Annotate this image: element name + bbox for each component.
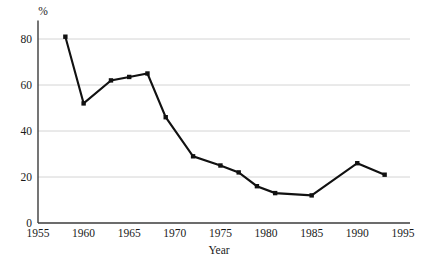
data-series-line [65, 37, 384, 196]
y-tick-label-group: 020406080 [21, 33, 33, 229]
x-tick-label: 1955 [27, 227, 50, 239]
x-axis-title: Year [208, 244, 229, 256]
x-tick-label: 1990 [346, 227, 369, 239]
y-tick-label: 40 [21, 125, 33, 137]
x-tick-label: 1975 [209, 227, 232, 239]
data-point-marker [382, 173, 386, 177]
data-point-marker [127, 75, 131, 79]
x-tick-label: 1980 [255, 227, 278, 239]
gridline-group [38, 39, 410, 177]
x-tick-label-group: 195519601965197019751980198519901995 [27, 227, 415, 239]
data-point-marker [255, 184, 259, 188]
y-axis-unit-label: % [38, 5, 48, 17]
y-tick-label: 80 [21, 33, 33, 45]
data-point-marker [273, 191, 277, 195]
data-point-marker [81, 101, 85, 105]
x-tick-label: 1965 [118, 227, 141, 239]
data-point-marker [236, 170, 240, 174]
data-point-marker [218, 163, 222, 167]
data-point-marker [63, 35, 67, 39]
data-point-marker [164, 115, 168, 119]
y-tick-label: 60 [21, 79, 33, 91]
x-tick-label: 1985 [300, 227, 323, 239]
axis-group [38, 21, 410, 223]
x-tick-label: 1995 [391, 227, 414, 239]
x-tick-label: 1970 [163, 227, 186, 239]
data-point-marker [145, 71, 149, 75]
data-point-marker [355, 161, 359, 165]
chart-container: 020406080 195519601965197019751980198519… [0, 0, 428, 272]
data-point-marker [191, 154, 195, 158]
data-point-marker [109, 78, 113, 82]
data-point-marker [309, 193, 313, 197]
x-tick-label: 1960 [72, 227, 95, 239]
data-marker-group [63, 35, 387, 198]
y-tick-label: 20 [21, 171, 33, 183]
line-chart: 020406080 195519601965197019751980198519… [0, 0, 428, 272]
